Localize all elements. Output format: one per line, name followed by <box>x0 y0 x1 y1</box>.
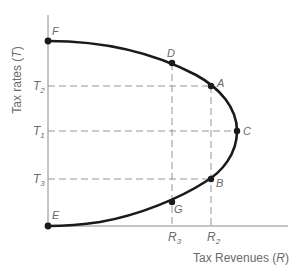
x-axis-label: Tax Revenues (R) <box>193 251 289 265</box>
label-c: C <box>243 125 251 137</box>
laffer-curve-diagram: Tax rates (T) F D A C B G E T2 T1 T3 <box>0 0 299 268</box>
label-d: D <box>167 47 175 59</box>
point-d <box>169 60 175 66</box>
point-c <box>234 128 240 134</box>
tick-t1: T1 <box>33 124 45 140</box>
label-a: A <box>216 77 224 89</box>
y-axis-label: Tax rates (T) <box>10 46 24 113</box>
label-f: F <box>52 25 60 37</box>
tick-r3: R3 <box>168 230 182 246</box>
tick-r2: R2 <box>207 230 221 246</box>
point-e <box>45 223 52 230</box>
label-e: E <box>52 209 60 221</box>
laffer-curve <box>48 41 237 226</box>
tick-t2: T2 <box>33 79 45 95</box>
point-f <box>45 38 52 45</box>
tick-t3: T3 <box>33 172 45 188</box>
label-b: B <box>216 177 223 189</box>
label-g: G <box>174 203 183 215</box>
point-a <box>208 83 214 89</box>
point-b <box>208 176 214 182</box>
